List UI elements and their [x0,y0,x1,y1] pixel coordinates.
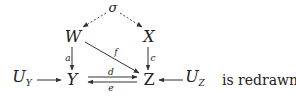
node-u-y-main: U [12,67,25,86]
edge-sigma-x [120,13,142,27]
edge-label-f: f [114,48,117,57]
node-y: Y [67,72,78,88]
node-u-y-sub: Y [26,78,32,88]
causal-diagram: σ W X Y Z UY UZ a c f d e is redrawn [0,0,296,99]
node-sigma: σ [109,0,118,16]
node-u-z-main: U [185,67,198,86]
node-z: Z [143,72,154,88]
node-u-z-sub: Z [199,78,205,88]
node-x: X [143,29,154,45]
node-w: W [65,29,81,45]
edge-label-e: e [108,84,113,93]
edge-sigma-w [83,13,106,27]
node-u-z: UZ [185,69,205,91]
node-u-y: UY [12,69,31,91]
trailing-text: is redrawn [222,73,296,87]
edge-label-d: d [108,68,114,77]
edge-label-c: c [150,54,155,63]
edge-label-a: a [65,54,70,63]
